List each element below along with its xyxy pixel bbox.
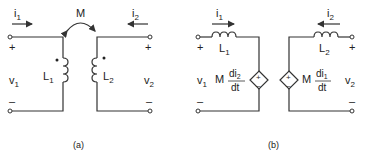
v2-minus: – [146, 95, 153, 107]
mutual-inductance-label: M [76, 7, 85, 19]
L1-label: L1 [43, 70, 54, 85]
v2-label: v2 [144, 74, 155, 89]
coupling-arrow-icon [67, 23, 95, 31]
i1-label-b: i1 [216, 7, 223, 22]
terminal-b2-bottom-icon [350, 109, 354, 113]
i1-label: i1 [14, 7, 21, 22]
v2-label-b: v2 [345, 74, 356, 89]
v1-minus-b: – [197, 95, 204, 107]
terminal-2-bottom-icon [148, 109, 152, 113]
terminal-b2-top-icon [350, 35, 354, 39]
inductor-L2-icon [92, 58, 97, 82]
src2-denominator: dt [318, 82, 327, 93]
caption-a: (a) [73, 140, 84, 150]
v2-minus-b: – [349, 95, 356, 107]
v1-label: v1 [9, 74, 20, 89]
v1-plus-b: + [197, 41, 203, 53]
v2-plus: + [145, 41, 151, 53]
inductor-L1-b-icon [212, 32, 236, 37]
dot-L2-icon [103, 57, 106, 60]
inductor-L2-b-icon [314, 32, 338, 37]
v1-label-b: v1 [197, 74, 208, 89]
coupled-inductor-diagram: i1 M i2 + v1 – L1 L2 + v2 – (a) [0, 0, 365, 156]
src1-minus: – [256, 81, 261, 90]
L2-label: L2 [103, 70, 114, 85]
inductor-L1-icon [63, 58, 68, 82]
terminal-1-bottom-icon [8, 109, 12, 113]
figure-b: i1 i2 + – + – + L1 v1 – M di2 dt [196, 7, 356, 150]
i2-label: i2 [132, 7, 139, 22]
figure-a: i1 M i2 + v1 – L1 L2 + v2 – (a) [8, 7, 155, 150]
src2-coef: M [302, 73, 311, 85]
terminal-b1-bottom-icon [196, 109, 200, 113]
terminal-2-top-icon [148, 35, 152, 39]
src2-numerator: di1 [316, 68, 328, 80]
i2-label-b: i2 [327, 7, 334, 22]
dot-L1-icon [56, 59, 59, 62]
src1-coef: M [215, 73, 224, 85]
v1-plus: + [9, 41, 15, 53]
L2-label-b: L2 [319, 42, 330, 57]
v2-plus-b: + [349, 41, 355, 53]
terminal-b1-top-icon [196, 35, 200, 39]
v1-minus: – [9, 95, 16, 107]
src1-denominator: dt [231, 82, 240, 93]
terminal-1-top-icon [8, 35, 12, 39]
src2-minus: – [286, 81, 291, 90]
src1-numerator: di2 [229, 68, 241, 80]
caption-b: (b) [268, 140, 279, 150]
L1-label-b: L1 [219, 42, 230, 57]
